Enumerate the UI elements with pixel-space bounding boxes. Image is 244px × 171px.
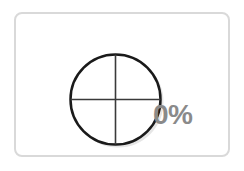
progress-percentage: 0% — [153, 101, 192, 129]
crosshair-circle-icon — [68, 52, 164, 148]
progress-card: 0% — [14, 12, 230, 157]
